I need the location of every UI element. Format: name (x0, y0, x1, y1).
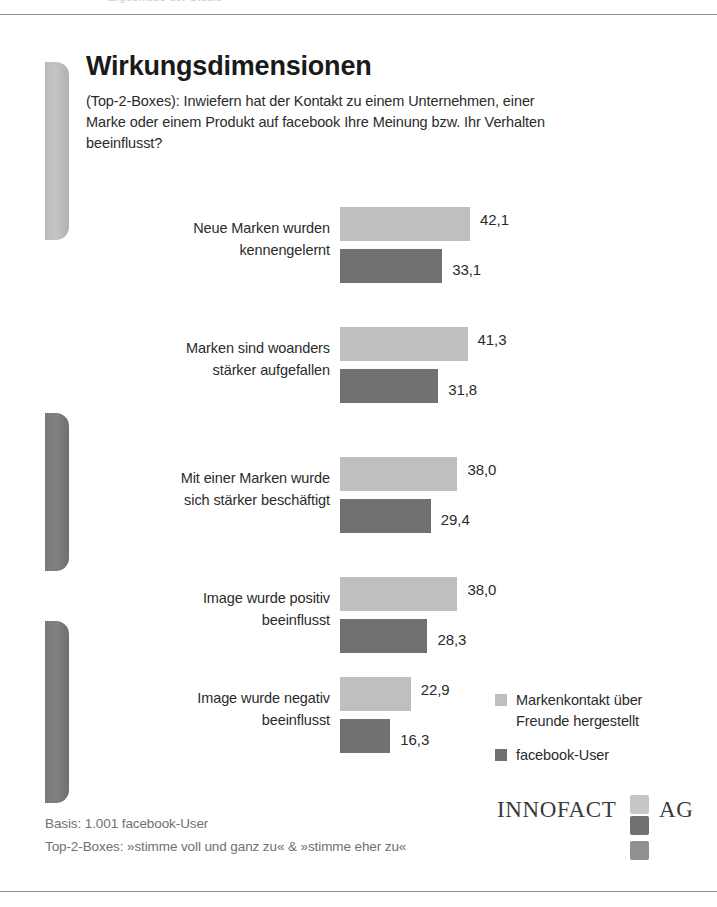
category-label-line: beeinflusst (100, 710, 330, 732)
bar-facebook-user (340, 719, 390, 753)
category-label: Neue Marken wurdenkennengelernt (100, 218, 330, 262)
bar-value-label: 41,3 (478, 331, 507, 348)
category-label-line: stärker aufgefallen (100, 360, 330, 382)
bar-facebook-user (340, 619, 427, 653)
category-label-line: Image wurde negativ (100, 688, 330, 710)
bar-value-label: 33,1 (452, 261, 481, 278)
chart-legend: Markenkontakt überFreunde hergestelltfac… (495, 690, 695, 780)
bar-value-label: 38,0 (467, 581, 496, 598)
logo-word-ag: AG (659, 797, 693, 823)
bar-value-label: 22,9 (421, 681, 450, 698)
category-label: Mit einer Marken wurdesich stärker besch… (100, 468, 330, 512)
legend-label-line: facebook-User (516, 745, 695, 766)
category-label: Marken sind woandersstärker aufgefallen (100, 338, 330, 382)
legend-label-line: Markenkontakt über (516, 690, 695, 711)
legend-swatch-icon (495, 749, 507, 761)
category-label-line: beeinflusst (100, 610, 330, 632)
legend-item[interactable]: Markenkontakt überFreunde hergestellt (495, 690, 695, 731)
logo-word-innofact: INNOFACT (497, 797, 616, 823)
category-label-line: Mit einer Marken wurde (100, 468, 330, 490)
footer-basis: Basis: 1.001 facebook-User (45, 812, 406, 835)
footer-note: Top-2-Boxes: »stimme voll und ganz zu« &… (45, 835, 406, 858)
logo-square-dark-icon (630, 816, 649, 835)
category-label-line: sich stärker beschäftigt (100, 490, 330, 512)
legend-label-line: Freunde hergestellt (516, 711, 695, 732)
category-label: Image wurde negativbeeinflusst (100, 688, 330, 732)
footer-notes: Basis: 1.001 facebook-User Top-2-Boxes: … (45, 812, 406, 858)
bar-value-label: 38,0 (467, 461, 496, 478)
bar-markenkontakt (340, 327, 468, 361)
bar-facebook-user (340, 369, 438, 403)
category-label-line: Neue Marken wurden (100, 218, 330, 240)
bar-value-label: 42,1 (480, 211, 509, 228)
bar-value-label: 28,3 (437, 631, 466, 648)
category-label: Image wurde positivbeeinflusst (100, 588, 330, 632)
legend-label: Markenkontakt überFreunde hergestellt (516, 690, 695, 731)
bar-markenkontakt (340, 677, 411, 711)
bar-markenkontakt (340, 457, 457, 491)
category-label-line: Image wurde positiv (100, 588, 330, 610)
bar-value-label: 31,8 (448, 381, 477, 398)
bar-facebook-user (340, 249, 442, 283)
category-label-line: Marken sind woanders (100, 338, 330, 360)
category-label-line: kennengelernt (100, 240, 330, 262)
bar-markenkontakt (340, 207, 470, 241)
logo-square-mid-icon (630, 841, 649, 860)
bar-markenkontakt (340, 577, 457, 611)
logo-square-light-icon (630, 795, 649, 814)
legend-swatch-icon (495, 694, 507, 706)
legend-item[interactable]: facebook-User (495, 745, 695, 766)
legend-label: facebook-User (516, 745, 695, 766)
bar-value-label: 29,4 (441, 511, 470, 528)
bar-facebook-user (340, 499, 431, 533)
bar-value-label: 16,3 (400, 731, 429, 748)
